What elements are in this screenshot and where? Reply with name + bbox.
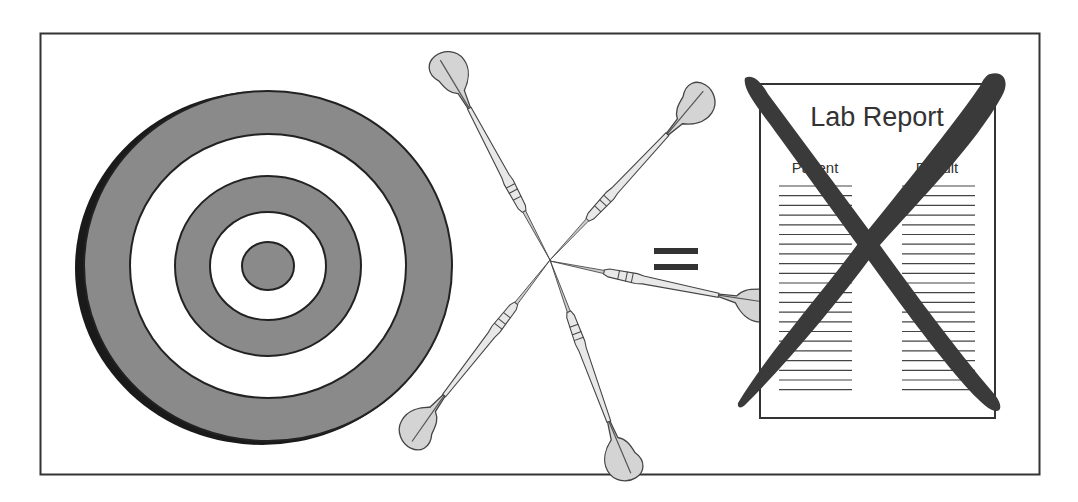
illustration-canvas: Lab Report Patient Result <box>0 0 1078 502</box>
target <box>75 91 452 445</box>
dart-bottom-left <box>537 77 723 273</box>
dart-top-left <box>533 254 647 487</box>
equals-sign <box>654 248 698 270</box>
target-bullseye <box>242 242 294 290</box>
lab-report-title: Lab Report <box>810 102 944 132</box>
dart-left <box>546 244 783 326</box>
